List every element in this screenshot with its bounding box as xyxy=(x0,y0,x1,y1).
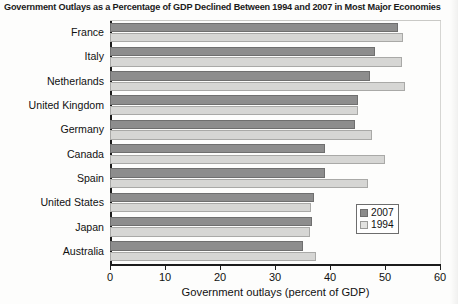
category-label-france: France xyxy=(0,26,104,38)
chart-legend: 2007 1994 xyxy=(356,204,399,234)
bar-1994-united-kingdom xyxy=(110,106,358,115)
bar-2007-canada xyxy=(110,144,325,153)
bar-2007-japan xyxy=(110,217,312,226)
x-tick-mark-0 xyxy=(110,264,111,270)
bar-1994-united-states xyxy=(110,203,311,212)
category-label-spain: Spain xyxy=(0,172,104,184)
category-label-australia: Australia xyxy=(0,245,104,257)
bar-group-row xyxy=(110,143,440,167)
bar-1994-netherlands xyxy=(110,82,405,91)
x-tick-label-30: 30 xyxy=(255,271,295,283)
page-edge-shadow xyxy=(450,0,458,304)
category-label-japan: Japan xyxy=(0,221,104,233)
bar-2007-italy xyxy=(110,47,375,56)
bar-2007-australia xyxy=(110,241,303,250)
category-label-canada: Canada xyxy=(0,148,104,160)
x-tick-label-20: 20 xyxy=(200,271,240,283)
category-label-germany: Germany xyxy=(0,123,104,135)
x-tick-mark-60 xyxy=(440,264,441,270)
bar-2007-united-kingdom xyxy=(110,95,358,104)
plot-right-border xyxy=(440,21,441,265)
bar-1994-canada xyxy=(110,155,385,164)
bar-group-row xyxy=(110,70,440,94)
bar-1994-france xyxy=(110,33,403,42)
bar-1994-japan xyxy=(110,227,310,236)
legend-label-1994: 1994 xyxy=(371,219,394,231)
bar-group-row xyxy=(110,94,440,118)
bar-2007-united-states xyxy=(110,193,314,202)
bar-group-row xyxy=(110,240,440,264)
x-tick-mark-10 xyxy=(165,264,166,270)
bar-1994-italy xyxy=(110,57,402,66)
bar-group-row xyxy=(110,118,440,142)
legend-item-2007[interactable]: 2007 xyxy=(360,207,394,219)
bar-group-row xyxy=(110,167,440,191)
x-tick-mark-30 xyxy=(275,264,276,270)
bar-2007-germany xyxy=(110,120,355,129)
legend-swatch-2007-icon xyxy=(360,209,368,217)
category-label-italy: Italy xyxy=(0,50,104,62)
legend-swatch-1994-icon xyxy=(360,221,368,229)
x-tick-label-40: 40 xyxy=(310,271,350,283)
chart-figure: Government Outlays as a Percentage of GD… xyxy=(0,0,458,304)
legend-label-2007: 2007 xyxy=(371,207,394,219)
bar-group-row xyxy=(110,45,440,69)
bar-2007-netherlands xyxy=(110,71,370,80)
legend-item-1994[interactable]: 1994 xyxy=(360,219,394,231)
bar-2007-spain xyxy=(110,168,325,177)
chart-title: Government Outlays as a Percentage of GD… xyxy=(4,1,445,12)
bar-1994-germany xyxy=(110,130,372,139)
x-tick-mark-50 xyxy=(385,264,386,270)
x-tick-mark-20 xyxy=(220,264,221,270)
x-tick-label-50: 50 xyxy=(365,271,405,283)
category-label-netherlands: Netherlands xyxy=(0,75,104,87)
bar-1994-australia xyxy=(110,252,316,261)
category-label-united-states: United States xyxy=(0,196,104,208)
x-tick-label-10: 10 xyxy=(145,271,185,283)
bar-1994-spain xyxy=(110,179,368,188)
bar-2007-france xyxy=(110,23,398,32)
x-axis-label: Government outlays (percent of GDP) xyxy=(110,286,441,298)
bar-group-row xyxy=(110,21,440,45)
x-tick-label-0: 0 xyxy=(90,271,130,283)
x-tick-mark-40 xyxy=(330,264,331,270)
category-label-united-kingdom: United Kingdom xyxy=(0,99,104,111)
